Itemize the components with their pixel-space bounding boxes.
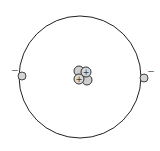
electron-right: − [140,66,155,82]
proton-charge-label: + [76,75,83,84]
nucleus: + + [74,66,92,85]
electron-charge-label: − [11,65,19,75]
electron-left: − [11,65,26,80]
atom-diagram: + + − − [0,0,160,151]
proton-charge-label: + [83,68,90,77]
electron [18,72,26,80]
electron-charge-label: − [147,66,155,76]
